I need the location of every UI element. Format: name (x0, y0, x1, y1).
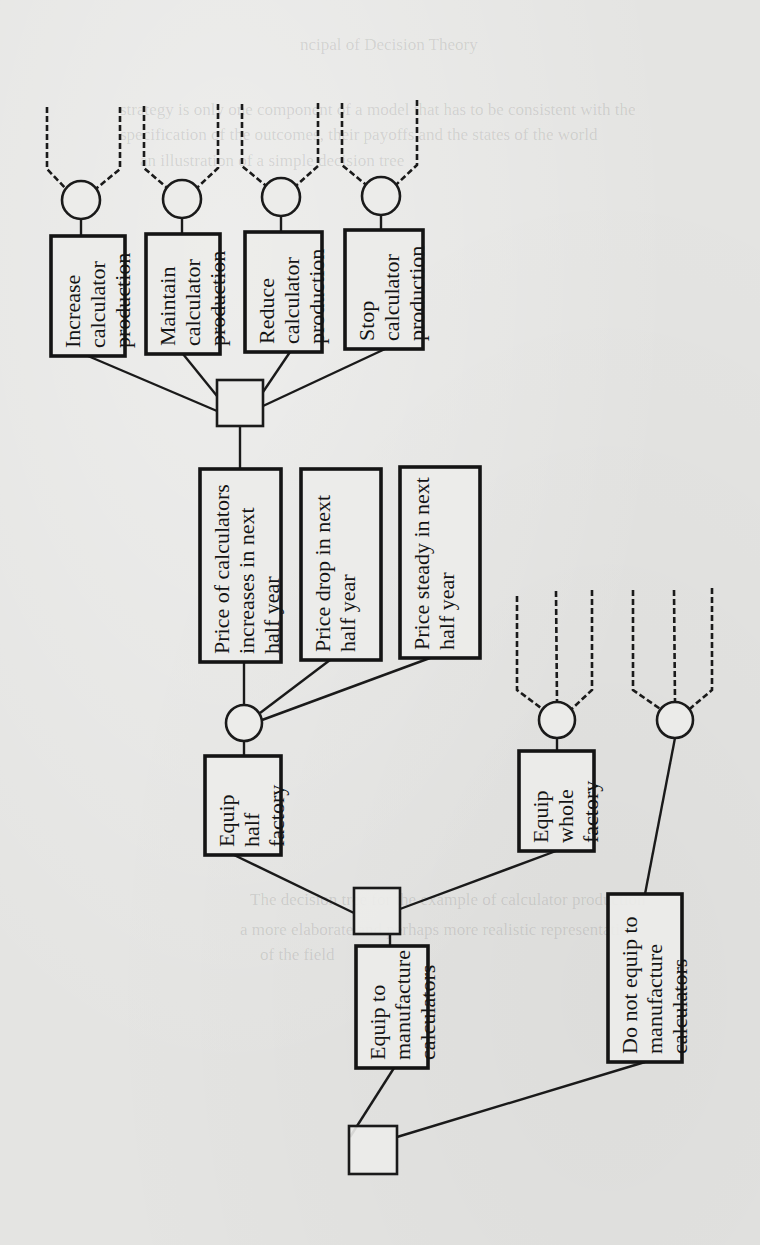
dashed-branch (342, 103, 366, 185)
box-label-line: Do not equip to (617, 917, 642, 1055)
box-label-line: Price steady in next (409, 477, 434, 650)
chance-node-circle (226, 705, 262, 741)
box-label-line: half year (259, 576, 284, 654)
box-label-line: factory (264, 785, 289, 847)
decision-node-square (349, 1126, 397, 1174)
decision-node-square (354, 888, 400, 934)
dashed-branch (571, 590, 592, 709)
box-label-line: half (239, 812, 264, 847)
box-label-line: production (404, 246, 429, 341)
dashed-branch (296, 103, 318, 186)
box-label-line: whole (553, 789, 578, 843)
box-label-line: production (304, 249, 329, 344)
tree-edge (263, 352, 290, 392)
dashed-branch (633, 590, 661, 709)
box-label-line: factory (578, 781, 603, 843)
box-label-line: manufacture (390, 950, 415, 1060)
box-label-line: Equip (214, 794, 239, 847)
outcome-box-stop-prod: Stopcalculatorproduction (345, 230, 429, 349)
dashed-branch (96, 107, 120, 189)
dashed-branch (242, 104, 266, 186)
box-label-line: calculator (85, 261, 110, 348)
box-label-line: Price drop in next (310, 495, 335, 652)
box-label-line: increases in next (234, 507, 259, 654)
dashed-branch (144, 106, 167, 188)
dashed-branch (556, 591, 557, 702)
box-label-line: Reduce (254, 278, 279, 344)
box-label-line: Maintain (155, 267, 180, 346)
box-label-line: Equip to (365, 985, 390, 1060)
box-label-line: Stop (354, 301, 379, 341)
outcome-box-inc-prod: Increasecalculatorproduction (51, 236, 135, 356)
box-label-line: half year (335, 574, 360, 652)
outcome-box-whole: Equipwholefactory (519, 751, 603, 851)
box-label-line: half year (434, 572, 459, 650)
box-label-line: Price of calculators (209, 484, 234, 654)
box-label-line: calculator (279, 257, 304, 344)
outcome-box-drop: Price drop in nexthalf year (301, 469, 381, 660)
page: ncipal of Decision Theory strategy is on… (0, 0, 760, 1245)
chance-node-circle (657, 702, 693, 738)
tree-edge (260, 660, 330, 713)
decision-tree-diagram: Equip tomanufacturecalculatorsDo not equ… (0, 0, 760, 1245)
dashed-branch (396, 100, 417, 185)
box-label-line: calculator (379, 254, 404, 341)
box-label-line: calculator (180, 259, 205, 346)
tree-edge (263, 349, 385, 406)
outcome-box-half: Equiphalffactory (205, 756, 289, 855)
box-label-line: production (205, 251, 230, 346)
box-label-line: calculators (667, 959, 692, 1054)
tree-edge (88, 356, 217, 411)
outcome-box-increase: Price of calculatorsincreases in nexthal… (200, 469, 284, 662)
tree-edge (262, 658, 430, 720)
outcome-box-noequip: Do not equip tomanufacturecalculators (608, 894, 692, 1062)
box-label-line: production (110, 253, 135, 348)
decision-node-square (217, 380, 263, 426)
tree-edge (183, 354, 217, 396)
dashed-branch (674, 590, 675, 702)
outcome-box-steady: Price steady in nexthalf year (400, 467, 480, 658)
tree-edge (645, 738, 675, 894)
tree-edge (400, 851, 556, 909)
dashed-branch (689, 588, 712, 709)
box-label-line: calculators (415, 965, 440, 1060)
dashed-branch (197, 104, 218, 188)
chance-node-circle (262, 178, 300, 216)
box-label-line: Equip (528, 790, 553, 843)
chance-node-circle (539, 702, 575, 738)
dashed-branch (517, 596, 543, 709)
dashed-branch (47, 107, 66, 189)
box-label-line: Increase (60, 275, 85, 348)
outcome-box-red-prod: Reducecalculatorproduction (245, 232, 329, 352)
outcome-box-main-prod: Maintaincalculatorproduction (146, 234, 230, 354)
outcome-box-equip: Equip tomanufacturecalculators (356, 946, 440, 1068)
chance-node-circle (362, 177, 400, 215)
chance-node-circle (62, 181, 100, 219)
tree-edge (234, 855, 354, 913)
tree-edge (397, 1062, 645, 1137)
box-label-line: manufacture (642, 944, 667, 1054)
chance-node-circle (163, 180, 201, 218)
